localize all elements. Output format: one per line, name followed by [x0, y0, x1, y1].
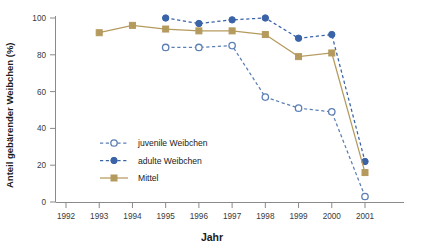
y-tick-label: 40 — [37, 124, 47, 133]
legend-item-label: adulte Weibchen — [138, 156, 202, 166]
legend-item-label: Mittel — [138, 173, 159, 183]
x-axis-title-text: Jahr — [201, 231, 223, 243]
y-tick-label: 60 — [37, 88, 47, 97]
x-tick-label: 1993 — [90, 212, 109, 221]
series-marker-filled-circle — [196, 20, 202, 26]
chart-legend: juvenile Weibchenadulte WeibchenMittel — [100, 138, 208, 183]
series-marker-filled-circle — [162, 15, 168, 21]
series-marker-open-circle — [196, 44, 202, 50]
x-tick-label: 1998 — [256, 212, 275, 221]
series-line — [166, 46, 365, 197]
legend-marker-open-circle — [111, 140, 117, 146]
series-marker-open-circle — [362, 193, 368, 199]
y-axis-title: Anteil gebärender Weibchen (%) — [4, 42, 15, 188]
series-marker-filled-square — [196, 28, 202, 34]
series-marker-open-circle — [295, 105, 301, 111]
y-tick-label: 100 — [32, 14, 46, 23]
chart-container: Anteil gebärender Weibchen (%) Jahr 0204… — [0, 0, 428, 249]
series-marker-filled-square — [96, 30, 102, 36]
series-marker-filled-circle — [295, 35, 301, 41]
x-tick-label: 1992 — [57, 212, 76, 221]
series-juvenile-weibchen — [162, 42, 368, 199]
series-marker-filled-square — [262, 32, 268, 38]
series-marker-filled-square — [163, 26, 169, 32]
y-tick-label: 20 — [37, 161, 47, 170]
legend-item-mittel: Mittel — [100, 173, 159, 183]
series-marker-filled-square — [229, 28, 235, 34]
y-axis-ticks: 020406080100 — [32, 14, 55, 207]
series-marker-filled-circle — [262, 15, 268, 21]
x-tick-label: 2000 — [323, 212, 342, 221]
y-tick-label: 0 — [41, 198, 46, 207]
legend-marker-filled-square — [111, 175, 117, 181]
line-chart: Anteil gebärender Weibchen (%) Jahr 0204… — [0, 0, 428, 249]
x-tick-label: 1994 — [123, 212, 142, 221]
legend-item-juvenile-weibchen: juvenile Weibchen — [100, 138, 208, 148]
x-tick-label: 1997 — [223, 212, 242, 221]
x-tick-label: 1999 — [289, 212, 308, 221]
x-tick-label: 1996 — [190, 212, 209, 221]
series-marker-filled-square — [329, 50, 335, 56]
series-marker-filled-square — [129, 22, 135, 28]
x-axis-ticks: 1992199319941995199619971998199920002001 — [57, 203, 375, 222]
series-marker-open-circle — [329, 109, 335, 115]
series-marker-open-circle — [262, 94, 268, 100]
series-marker-open-circle — [229, 42, 235, 48]
series-marker-filled-circle — [229, 17, 235, 23]
y-axis-title-text: Anteil gebärender Weibchen (%) — [4, 42, 15, 188]
series-marker-filled-square — [362, 170, 368, 176]
legend-item-label: juvenile Weibchen — [137, 138, 208, 148]
series-layer — [96, 15, 368, 200]
series-marker-filled-circle — [329, 31, 335, 37]
y-tick-label: 80 — [37, 51, 47, 60]
legend-item-adulte-weibchen: adulte Weibchen — [100, 156, 202, 166]
x-tick-label: 1995 — [157, 212, 176, 221]
x-tick-label: 2001 — [356, 212, 375, 221]
series-marker-open-circle — [162, 44, 168, 50]
series-marker-filled-square — [296, 54, 302, 60]
legend-marker-filled-circle — [111, 157, 117, 163]
